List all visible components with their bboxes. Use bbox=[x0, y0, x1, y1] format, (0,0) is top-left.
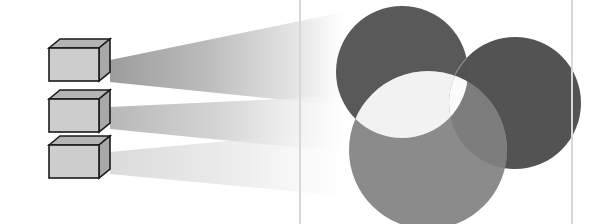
box-3-front-face bbox=[49, 145, 99, 178]
box-group bbox=[49, 39, 110, 178]
box-2-front-face bbox=[49, 99, 99, 132]
figure-canvas bbox=[0, 0, 611, 224]
box-1-front-face bbox=[49, 48, 99, 81]
box-2 bbox=[49, 90, 110, 132]
box-3 bbox=[49, 136, 110, 178]
box-1 bbox=[49, 39, 110, 81]
figure-svg bbox=[0, 0, 611, 224]
